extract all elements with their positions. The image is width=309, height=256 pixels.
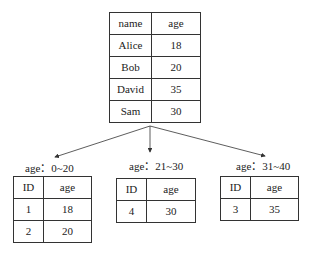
cell: 18 xyxy=(152,35,201,57)
arrow-to-partition-1 xyxy=(55,126,150,157)
cell: Sam xyxy=(110,101,152,123)
table-header-row: ID age xyxy=(117,179,196,201)
header-cell: ID xyxy=(221,177,251,199)
source-table: name age Alice 18 Bob 20 David 35 Sam 30 xyxy=(109,12,201,123)
table-row: Bob 20 xyxy=(110,57,201,79)
table-row: 2 20 xyxy=(14,221,92,243)
cell: 30 xyxy=(152,101,201,123)
header-cell: name xyxy=(110,13,152,35)
partition-1-label: age：0~20 xyxy=(25,159,74,175)
partition-2-table: ID age 4 30 xyxy=(116,178,196,223)
table-row: Sam 30 xyxy=(110,101,201,123)
cell: 20 xyxy=(152,57,201,79)
cell: 18 xyxy=(44,199,92,221)
partition-3-label: age：31~40 xyxy=(236,157,290,173)
table-row: 3 35 xyxy=(221,199,299,221)
header-cell: age xyxy=(44,177,92,199)
table-header-row: ID age xyxy=(221,177,299,199)
arrow-to-partition-3 xyxy=(150,126,265,156)
partition-2-label: age：21~30 xyxy=(129,157,183,173)
table-row: 1 18 xyxy=(14,199,92,221)
cell: 35 xyxy=(152,79,201,101)
table-row: 4 30 xyxy=(117,201,196,223)
cell: 35 xyxy=(251,199,299,221)
table-header-row: ID age xyxy=(14,177,92,199)
cell: 4 xyxy=(117,201,147,223)
partition-3-table: ID age 3 35 xyxy=(220,176,299,221)
header-cell: age xyxy=(251,177,299,199)
header-cell: age xyxy=(147,179,196,201)
cell: 20 xyxy=(44,221,92,243)
table-row: David 35 xyxy=(110,79,201,101)
cell: Alice xyxy=(110,35,152,57)
cell: 30 xyxy=(147,201,196,223)
cell: Bob xyxy=(110,57,152,79)
cell: David xyxy=(110,79,152,101)
cell: 2 xyxy=(14,221,44,243)
header-cell: age xyxy=(152,13,201,35)
header-cell: ID xyxy=(14,177,44,199)
table-header-row: name age xyxy=(110,13,201,35)
table-row: Alice 18 xyxy=(110,35,201,57)
cell: 1 xyxy=(14,199,44,221)
header-cell: ID xyxy=(117,179,147,201)
partition-1-table: ID age 1 18 2 20 xyxy=(13,176,92,243)
cell: 3 xyxy=(221,199,251,221)
